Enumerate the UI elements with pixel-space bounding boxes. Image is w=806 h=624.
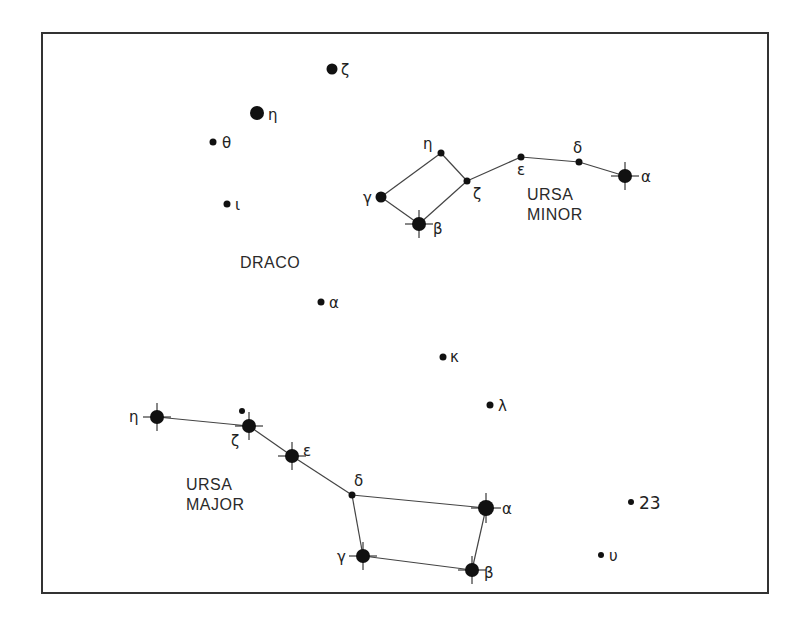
star-label: ζ — [341, 61, 349, 79]
constellation-line — [352, 495, 363, 556]
star-label: ζ — [231, 432, 239, 450]
star-umi-zeta: ζ — [464, 178, 482, 204]
star-label: α — [641, 168, 651, 186]
star-label: δ — [573, 139, 582, 157]
star-dot-icon — [210, 139, 217, 146]
star-uma-eta: η — [129, 403, 171, 431]
star-uma-alpha: α — [471, 493, 512, 523]
constellation-line — [419, 181, 467, 224]
star-umi-gamma: γ — [363, 189, 387, 207]
constellation-line — [292, 456, 352, 495]
constellation-line — [157, 417, 249, 426]
star-dot-icon — [327, 64, 338, 75]
star-umi-eta: η — [423, 135, 445, 157]
star-dot-icon — [224, 201, 231, 208]
star-uma-gamma: γ — [337, 542, 377, 570]
star-uma-23: 23 — [628, 493, 661, 513]
star-label: β — [433, 220, 443, 238]
constellation-line — [467, 157, 521, 181]
star-dra-alpha: α — [318, 294, 340, 312]
star-label: δ — [354, 472, 363, 490]
star-dot-icon — [440, 354, 447, 361]
star-label: β — [484, 564, 494, 582]
star-label: α — [329, 294, 339, 312]
star-label: ι — [235, 196, 240, 214]
star-dot-icon — [487, 402, 494, 409]
star-label: 23 — [639, 493, 661, 513]
constellation-label-ursa-minor-line2: MINOR — [527, 206, 583, 223]
star-label: ε — [517, 161, 525, 179]
star-dot-icon — [518, 154, 525, 161]
star-label: θ — [222, 134, 231, 152]
constellation-label-ursa-major-line1: URSA — [186, 476, 232, 493]
star-dra-kappa: κ — [440, 348, 460, 366]
star-label: η — [423, 135, 433, 153]
star-label: ζ — [473, 185, 481, 203]
constellation-label-draco: DRACO — [240, 254, 300, 271]
star-umi-alpha: α — [611, 162, 651, 190]
star-uma-alcor — [239, 408, 245, 414]
star-dot-icon — [285, 449, 299, 463]
star-dot-icon — [598, 552, 604, 558]
star-label: λ — [498, 397, 507, 415]
constellation-line — [249, 426, 292, 456]
star-uma-delta: δ — [349, 472, 364, 499]
star-dot-icon — [478, 500, 494, 516]
star-label: κ — [450, 348, 459, 366]
star-dra-lambda: λ — [487, 397, 508, 415]
star-label: α — [502, 500, 512, 518]
star-dot-icon — [618, 169, 632, 183]
star-dot-icon — [250, 106, 264, 120]
star-umi-epsilon: ε — [517, 154, 525, 180]
constellation-line — [579, 162, 625, 176]
constellation-line — [352, 495, 486, 508]
star-label: η — [129, 408, 139, 426]
star-dot-icon — [412, 217, 426, 231]
star-dot-icon — [628, 499, 634, 505]
star-dot-icon — [150, 410, 164, 424]
star-dot-icon — [318, 299, 325, 306]
star-dot-icon — [438, 150, 445, 157]
star-uma-zeta: ζ — [231, 412, 263, 450]
star-dot-icon — [349, 492, 356, 499]
constellation-line — [381, 153, 441, 197]
star-dra-eta: η — [250, 106, 278, 124]
constellation-line — [472, 508, 486, 570]
constellation-label-ursa-major-line2: MAJOR — [186, 496, 245, 513]
star-dot-icon — [239, 408, 245, 414]
star-chart: ζηθιακληζγβεδαηζεδαγβ23υ DRACO URSA MINO… — [0, 0, 806, 624]
constellation-label-ursa-minor-line1: URSA — [527, 186, 573, 203]
constellation-line — [521, 157, 579, 162]
constellation-line — [441, 153, 467, 181]
star-label: γ — [337, 548, 346, 566]
star-dot-icon — [242, 419, 256, 433]
star-dot-icon — [464, 178, 471, 185]
star-label: υ — [609, 547, 618, 565]
star-umi-beta: β — [405, 210, 443, 238]
star-uma-beta: β — [458, 556, 494, 584]
star-dra-theta: θ — [210, 134, 232, 152]
star-dot-icon — [576, 159, 583, 166]
star-dot-icon — [356, 549, 370, 563]
star-label: γ — [363, 189, 372, 207]
constellation-line — [363, 556, 472, 570]
star-dot-icon — [465, 563, 479, 577]
star-label: η — [268, 106, 278, 124]
star-dra-zeta: ζ — [327, 61, 350, 79]
star-dra-iota: ι — [224, 196, 241, 214]
star-label: ε — [303, 442, 311, 460]
star-uma-upsilon: υ — [598, 547, 618, 565]
star-dot-icon — [376, 192, 387, 203]
